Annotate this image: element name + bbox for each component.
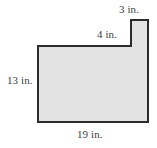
dimension-label-left-height: 13 in. [7, 74, 33, 86]
geometry-figure: 3 in. 4 in. 13 in. 19 in. [0, 0, 157, 148]
dimension-label-step: 4 in. [97, 28, 117, 40]
dimension-label-bottom-width: 19 in. [77, 128, 103, 140]
dimension-label-top-right: 3 in. [119, 3, 139, 15]
l-shaped-polygon [38, 20, 148, 122]
